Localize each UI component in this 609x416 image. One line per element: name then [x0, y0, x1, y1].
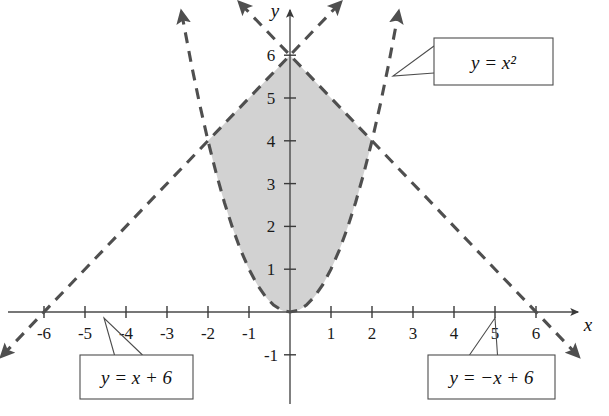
x-tick-label: 3 — [409, 324, 418, 343]
y-tick-label: 6 — [267, 46, 276, 65]
x-axis-tick-labels: -6-5-4-3-2-1123456 — [37, 324, 540, 343]
y-axis-label: y — [269, 0, 280, 21]
callout-label-line-left: y = x + 6 — [99, 367, 173, 388]
x-tick-label: 1 — [327, 324, 336, 343]
x-tick-label: -6 — [37, 324, 51, 343]
coordinate-plane-figure: -6-5-4-3-2-1123456 -1123456 x y y = x² y… — [0, 0, 609, 416]
callout-parabola: y = x² — [393, 38, 553, 85]
callout-leader-line — [393, 46, 434, 76]
y-tick-label: 5 — [267, 89, 276, 108]
x-axis-label: x — [583, 314, 593, 335]
y-tick-label: 4 — [267, 132, 276, 151]
x-tick-label: -2 — [201, 324, 215, 343]
y-tick-label: -1 — [264, 346, 278, 365]
x-tick-label: -5 — [78, 324, 92, 343]
x-tick-label: 2 — [368, 324, 377, 343]
x-tick-label: 5 — [491, 324, 500, 343]
x-tick-label: -1 — [242, 324, 256, 343]
y-tick-label: 1 — [267, 260, 276, 279]
x-tick-label: 4 — [450, 324, 459, 343]
callout-label-line-right: y = −x + 6 — [448, 367, 534, 388]
graph-canvas: -6-5-4-3-2-1123456 -1123456 x y y = x² y… — [0, 0, 609, 416]
x-tick-label: -3 — [160, 324, 174, 343]
y-tick-label: 3 — [267, 175, 276, 194]
callout-line-left: y = x + 6 — [80, 318, 193, 399]
callout-label-parabola: y = x² — [469, 52, 516, 73]
y-tick-label: 2 — [267, 217, 276, 236]
x-tick-label: -4 — [119, 324, 134, 343]
x-tick-label: 6 — [532, 324, 541, 343]
